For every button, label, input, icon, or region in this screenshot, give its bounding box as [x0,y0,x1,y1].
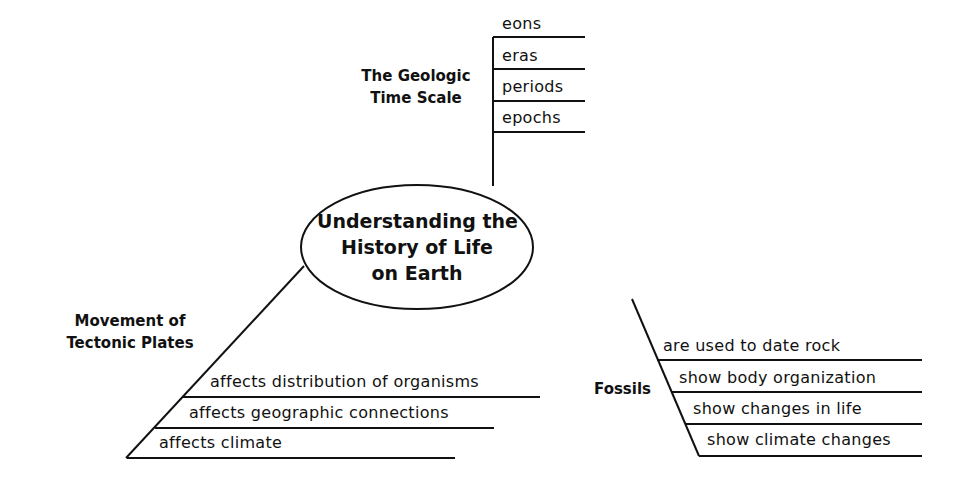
tectonic-item-distribution: affects distribution of organisms [210,374,479,390]
tectonic-branch-lines [126,266,540,458]
tectonic-item-geographic: affects geographic connections [189,405,449,421]
tectonic-item-climate: affects climate [159,435,282,451]
fossils-item-changes-life: show changes in life [693,401,862,417]
geologic-item-eons: eons [502,16,541,32]
geologic-title-line-1: The Geologic [346,65,486,87]
center-line-2: History of Life [317,234,517,260]
center-node: Understanding the History of Life on Ear… [317,208,517,286]
fossils-title: Fossils [594,378,664,400]
tectonic-title-line-2: Tectonic Plates [50,332,210,354]
tectonic-title-line-1: Movement of [50,310,210,332]
fossils-item-date-rock: are used to date rock [663,338,840,354]
fossils-item-body-organization: show body organization [679,370,876,386]
geologic-title: The Geologic Time Scale [346,65,486,109]
center-line-1: Understanding the [317,208,517,234]
geologic-item-periods: periods [502,79,563,95]
tectonic-title: Movement of Tectonic Plates [50,310,210,354]
center-line-3: on Earth [317,260,517,286]
geologic-title-line-2: Time Scale [346,87,486,109]
fossils-item-climate-changes: show climate changes [707,432,891,448]
geologic-item-eras: eras [502,48,538,64]
geologic-item-epochs: epochs [502,110,561,126]
